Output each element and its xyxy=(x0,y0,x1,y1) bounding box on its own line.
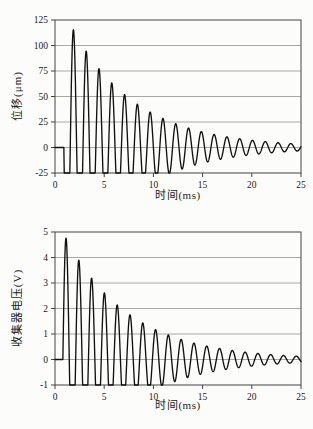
figure-page: -2502550751001250510152025-1012345051015… xyxy=(0,0,313,429)
y-tick-label: -1 xyxy=(40,380,48,390)
y-tick-label: -25 xyxy=(35,168,48,178)
displacement-y-axis-label: 位移(μm) xyxy=(8,36,24,156)
y-tick-label: 0 xyxy=(43,355,48,365)
y-tick-label: 2 xyxy=(43,304,48,314)
y-tick-label: 50 xyxy=(39,92,49,102)
displacement-plot: -2502550751001250510152025 xyxy=(34,15,306,190)
y-tick-label: 5 xyxy=(43,227,48,237)
voltage-curve xyxy=(55,238,301,385)
y-tick-label: 4 xyxy=(43,253,48,263)
voltage-plot: -10123450510152025 xyxy=(40,227,306,402)
y-tick-label: 75 xyxy=(39,66,49,76)
voltage-x-axis-label: 时间(ms) xyxy=(55,396,301,412)
y-tick-label: 0 xyxy=(43,143,48,153)
displacement-curve xyxy=(55,30,301,173)
y-tick-label: 3 xyxy=(43,278,48,288)
charts-canvas: -2502550751001250510152025-1012345051015… xyxy=(0,0,313,429)
displacement-x-axis-label: 时间(ms) xyxy=(55,186,301,202)
y-tick-label: 1 xyxy=(43,329,48,339)
y-tick-label: 25 xyxy=(39,117,49,127)
y-tick-label: 125 xyxy=(34,15,49,25)
voltage-y-axis-label: 收集器电压(V) xyxy=(8,248,24,368)
y-tick-label: 100 xyxy=(34,41,49,51)
